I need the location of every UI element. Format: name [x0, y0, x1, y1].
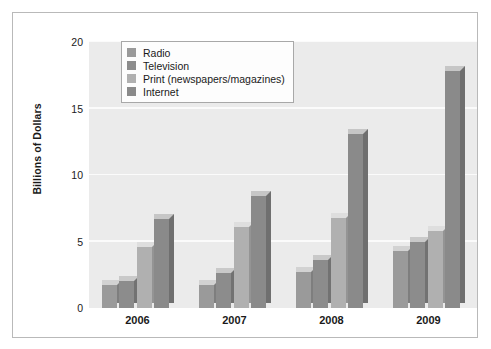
bar-front-face [216, 273, 231, 308]
bar-front-face [119, 281, 134, 308]
bar-side-face [460, 66, 465, 303]
y-axis-tick-label: 10 [55, 169, 83, 181]
y-axis-title: Billions of Dollars [31, 49, 43, 249]
bar-front-face [393, 251, 408, 308]
x-axis-tick-label: 2008 [302, 314, 362, 326]
bar [234, 222, 249, 308]
gridline [89, 174, 477, 176]
x-axis-tick-label: 2007 [205, 314, 265, 326]
bar-front-face [331, 218, 346, 308]
y-axis-tick-label: 0 [55, 302, 83, 314]
bar [102, 280, 117, 308]
bar [119, 276, 134, 308]
bar-side-face [169, 214, 174, 303]
bar-front-face [348, 134, 363, 308]
legend-label: Print (newspapers/magazines) [143, 73, 285, 85]
bar-top-face [313, 255, 328, 260]
bar [137, 242, 152, 308]
bar-top-face [393, 246, 408, 251]
bar-top-face [102, 280, 117, 285]
bar-front-face [410, 242, 425, 309]
bar-top-face [137, 242, 152, 247]
legend-swatch-icon [127, 61, 136, 70]
bar-front-face [137, 247, 152, 308]
bar [410, 237, 425, 309]
legend-item: Radio [127, 46, 285, 59]
bar-top-face [154, 214, 169, 219]
bar-front-face [428, 231, 443, 308]
chart-frame: Billions of Dollars 05101520 20062007200… [12, 12, 478, 338]
y-axis-tick-label: 5 [55, 236, 83, 248]
bar-top-face [234, 222, 249, 227]
y-axis-tick-label: 15 [55, 103, 83, 115]
bar-top-face [331, 213, 346, 218]
y-axis-tick-label: 20 [55, 36, 83, 48]
bar-front-face [313, 260, 328, 308]
bar-front-face [199, 285, 214, 308]
bar-front-face [445, 71, 460, 308]
bar-front-face [102, 285, 117, 308]
bar-top-face [251, 191, 266, 196]
bar [348, 129, 363, 308]
bar-front-face [296, 272, 311, 308]
chart-figure: Billions of Dollars 05101520 20062007200… [0, 0, 491, 349]
bar [154, 214, 169, 308]
gridline [89, 107, 477, 109]
bar [331, 213, 346, 308]
bar-top-face [348, 129, 363, 134]
bar-top-face [428, 226, 443, 231]
x-axis-tick-label: 2006 [108, 314, 168, 326]
bar-top-face [445, 66, 460, 71]
legend-label: Radio [143, 47, 170, 59]
x-axis-tick-labels: 2006200720082009 [89, 310, 477, 332]
bar [199, 280, 214, 308]
bar-top-face [119, 276, 134, 281]
bar-top-face [410, 237, 425, 242]
bar-side-face [363, 129, 368, 303]
bar-front-face [154, 219, 169, 308]
bar-top-face [296, 267, 311, 272]
bar-top-face [216, 268, 231, 273]
bar [393, 246, 408, 308]
bar [251, 191, 266, 308]
x-axis-tick-label: 2009 [399, 314, 459, 326]
legend-swatch-icon [127, 74, 136, 83]
bar-top-face [199, 280, 214, 285]
bar [445, 66, 460, 308]
legend-item: Print (newspapers/magazines) [127, 72, 285, 85]
bar [216, 268, 231, 308]
legend-label: Television [143, 60, 189, 72]
chart-legend: RadioTelevisionPrint (newspapers/magazin… [121, 41, 294, 103]
y-axis-tick-labels: 05101520 [53, 42, 83, 308]
bar-front-face [251, 196, 266, 308]
legend-item: Television [127, 59, 285, 72]
legend-label: Internet [143, 86, 179, 98]
legend-swatch-icon [127, 48, 136, 57]
legend-item: Internet [127, 85, 285, 98]
bar-front-face [234, 227, 249, 308]
bar-side-face [266, 191, 271, 303]
legend-swatch-icon [127, 87, 136, 96]
bar [296, 267, 311, 308]
bar [428, 226, 443, 308]
bar [313, 255, 328, 308]
